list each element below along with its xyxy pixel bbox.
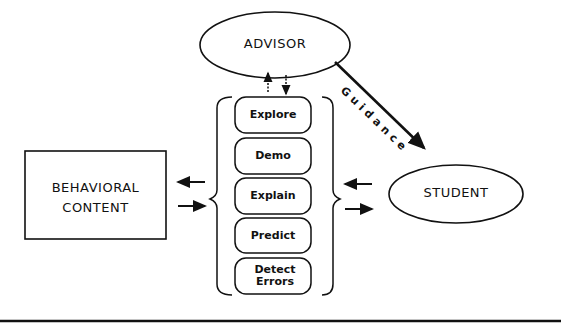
left-brace	[210, 97, 232, 295]
mode-predict-label: Predict	[235, 230, 311, 242]
advisor-label: ADVISOR	[225, 36, 325, 51]
mode-detect-errors-line2: Errors	[240, 276, 310, 288]
mode-explain-label: Explain	[235, 190, 311, 202]
behavioral-content-line1: BEHAVIORAL	[25, 178, 166, 198]
mode-detect-errors-label: Detect Errors	[240, 264, 310, 288]
guidance-arrow	[335, 62, 424, 148]
behavioral-content-line2: CONTENT	[25, 198, 166, 218]
mode-explore-label: Explore	[235, 109, 311, 121]
right-brace	[322, 97, 340, 295]
mode-demo-label: Demo	[235, 150, 311, 162]
behavioral-content-label: BEHAVIORAL CONTENT	[25, 178, 166, 218]
student-label: STUDENT	[406, 185, 506, 200]
